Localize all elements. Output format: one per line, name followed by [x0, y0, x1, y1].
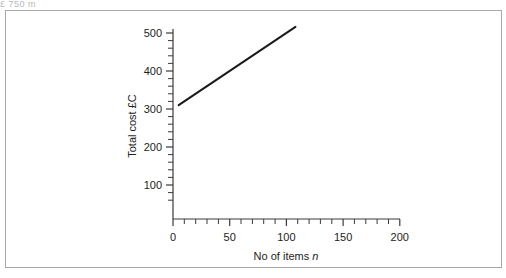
cost-line-series	[179, 27, 296, 105]
y-tick-label-300: 300	[144, 103, 162, 115]
y-tick-label-200: 200	[144, 141, 162, 153]
y-axis-minor-ticks	[168, 41, 173, 201]
x-axis-title: No of items n	[254, 250, 319, 262]
x-tick-label-0: 0	[170, 231, 176, 243]
y-tick-label-500: 500	[144, 27, 162, 39]
x-axis-title-plain: No of items	[254, 250, 313, 262]
figure-frame: 500 400 300 200 100 0 50 100 150 200 Tot…	[5, 10, 502, 268]
x-tick-label-200: 200	[391, 231, 409, 243]
y-axis-title: Total cost £C	[126, 94, 138, 158]
x-tick-label-50: 50	[224, 231, 236, 243]
cut-off-header-text: £ 750 m	[0, 0, 120, 8]
x-tick-label-100: 100	[277, 231, 295, 243]
y-tick-label-400: 400	[144, 65, 162, 77]
y-tick-label-100: 100	[144, 179, 162, 191]
x-axis-title-variable: n	[312, 250, 318, 262]
line-chart: 500 400 300 200 100 0 50 100 150 200 Tot…	[6, 11, 503, 269]
x-tick-label-150: 150	[334, 231, 352, 243]
